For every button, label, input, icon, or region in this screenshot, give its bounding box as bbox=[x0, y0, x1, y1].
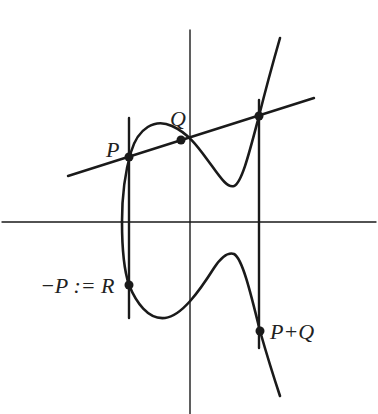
point-third-intersection bbox=[255, 112, 264, 121]
label-P: P bbox=[105, 137, 119, 162]
point-P-plus-Q bbox=[256, 327, 265, 336]
elliptic-curve-lower-branch bbox=[122, 222, 280, 396]
elliptic-curve-upper-branch bbox=[122, 38, 280, 222]
label-R: −P := R bbox=[40, 273, 115, 298]
secant-line-PQ bbox=[68, 98, 314, 176]
label-Q: Q bbox=[170, 106, 186, 131]
point-R bbox=[125, 281, 134, 290]
point-P bbox=[125, 153, 134, 162]
point-Q bbox=[177, 136, 186, 145]
label-P-plus-Q: P+Q bbox=[269, 319, 314, 344]
elliptic-curve-diagram: P Q −P := R P+Q bbox=[0, 0, 378, 414]
